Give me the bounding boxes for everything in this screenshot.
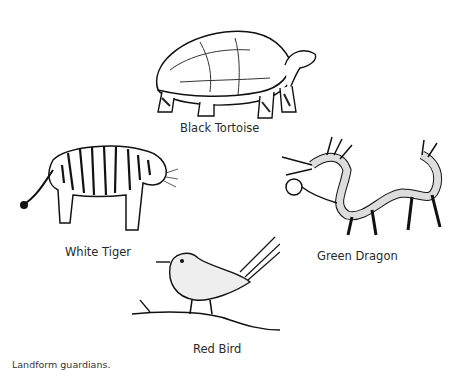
tiger-illustration-icon [18,135,178,235]
tortoise-illustration-icon [140,20,320,120]
tortoise-figure [140,20,320,120]
label-red-bird: Red Bird [193,342,241,356]
dragon-illustration-icon [272,135,450,245]
figure-caption: Landform guardians. [12,359,110,370]
label-green-dragon: Green Dragon [317,249,398,263]
label-white-tiger: White Tiger [65,245,131,259]
bird-figure [130,232,280,332]
tiger-figure [18,135,178,235]
label-black-tortoise: Black Tortoise [180,121,259,135]
dragon-figure [272,135,450,245]
bird-illustration-icon [130,232,280,332]
